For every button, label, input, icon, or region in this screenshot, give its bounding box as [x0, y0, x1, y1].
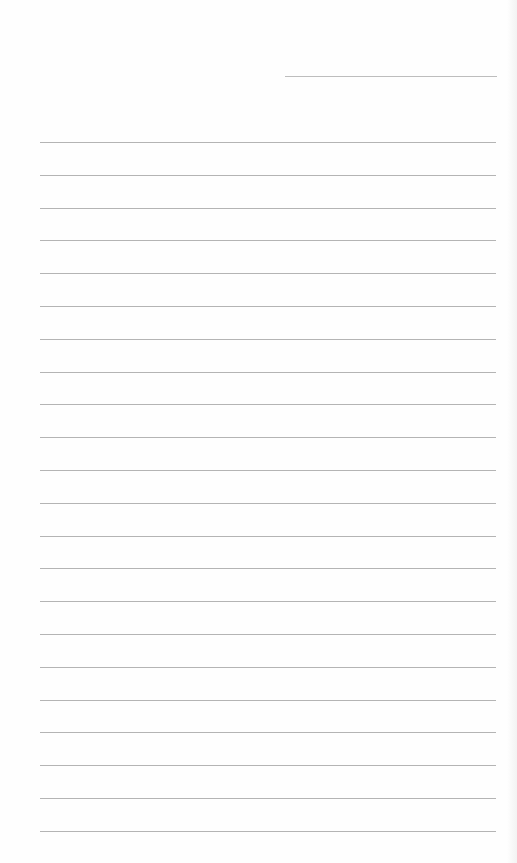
ruled-line [40, 437, 496, 438]
ruled-line [40, 700, 496, 701]
lined-paper-page [0, 0, 517, 863]
page-edge-shadow [507, 0, 517, 863]
ruled-line [40, 503, 496, 504]
ruled-line [40, 372, 496, 373]
ruled-line [40, 667, 496, 668]
ruled-line [40, 732, 496, 733]
ruled-line [40, 831, 496, 832]
header-name-line [285, 76, 497, 77]
ruled-line [40, 601, 496, 602]
ruled-line [40, 175, 496, 176]
ruled-line [40, 404, 496, 405]
ruled-line [40, 208, 496, 209]
ruled-line [40, 536, 496, 537]
ruled-line [40, 765, 496, 766]
ruled-line [40, 634, 496, 635]
ruled-line [40, 240, 496, 241]
ruled-line [40, 306, 496, 307]
ruled-line [40, 568, 496, 569]
ruled-line [40, 339, 496, 340]
ruled-line [40, 142, 496, 143]
ruled-line [40, 273, 496, 274]
ruled-line [40, 798, 496, 799]
ruled-line [40, 470, 496, 471]
